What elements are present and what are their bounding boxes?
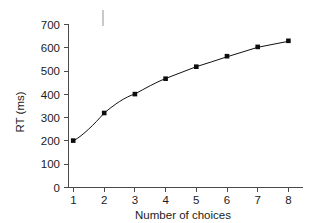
x-tick-label: 3 [132,194,138,206]
x-tick-label: 5 [193,194,199,206]
data-series-rt [71,39,291,143]
y-tick-label: 500 [41,65,60,77]
y-tick-label: 200 [41,135,60,147]
x-tick-label: 1 [70,194,76,206]
y-tick-label: 600 [41,42,60,54]
y-axis-tick-labels: 700 600 500 400 300 200 100 0 [41,19,60,194]
x-tick-label: 7 [254,194,260,206]
y-tick-label: 100 [41,158,60,170]
x-tick-label: 6 [224,194,230,206]
x-axis-ticks [74,188,289,193]
y-axis-title: RT (ms) [14,91,26,132]
y-tick-label: 300 [41,112,60,124]
line-chart: 700 600 500 400 300 200 100 0 1 2 3 4 5 [0,0,314,223]
data-point [163,76,168,81]
data-point [133,92,138,97]
y-axis-ticks [64,25,69,188]
x-axis-title: Number of choices [135,209,231,221]
data-point [225,54,230,59]
data-point [102,111,107,116]
y-tick-label: 700 [41,19,60,31]
series-path [74,41,289,141]
y-tick-label: 0 [54,182,60,194]
x-tick-label: 2 [101,194,107,206]
y-tick-label: 400 [41,89,60,101]
chart-container: 700 600 500 400 300 200 100 0 1 2 3 4 5 [0,0,314,223]
x-tick-label: 4 [162,194,169,206]
data-point [286,39,291,44]
data-point [194,64,199,69]
x-tick-label: 8 [285,194,291,206]
data-point [255,45,260,50]
x-axis-tick-labels: 1 2 3 4 5 6 7 8 [70,194,291,206]
data-point [71,138,76,143]
